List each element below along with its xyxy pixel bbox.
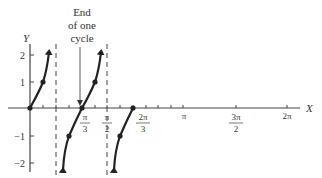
svg-text:2: 2 <box>105 124 110 134</box>
x-tick-pi2: π 2 <box>102 112 112 134</box>
y-axis-label: Y <box>23 32 31 44</box>
svg-text:2π: 2π <box>138 112 148 122</box>
svg-text:3: 3 <box>141 124 146 134</box>
y-tick-2: 2 <box>20 50 25 61</box>
y-tick-m1: −1 <box>14 131 25 142</box>
x-tick-2pi3: 2π 3 <box>136 112 150 134</box>
chart-svg: Y X 2 1 −1 −2 π 3 π 2 2π 3 π 3π 2 2π <box>0 0 322 178</box>
curve-branch-3 <box>114 108 133 170</box>
annotation-line-1: End <box>62 6 102 19</box>
svg-text:π: π <box>83 112 88 122</box>
svg-text:3: 3 <box>83 124 88 134</box>
curve-branch-1 <box>30 52 49 108</box>
x-tick-pi: π <box>182 111 187 121</box>
data-points <box>27 79 135 138</box>
chart-figure: Y X 2 1 −1 −2 π 3 π 2 2π 3 π 3π 2 2π <box>0 0 322 178</box>
x-axis-label: X <box>305 102 314 114</box>
annotation-line-2: of one <box>62 19 102 32</box>
svg-text:3π: 3π <box>231 112 241 122</box>
curve-branch-2 <box>63 52 101 170</box>
x-tick-2pi: 2π <box>282 111 292 121</box>
x-tick-3pi2: 3π 2 <box>229 112 243 134</box>
annotation-end-of-cycle: End of one cycle <box>62 6 102 45</box>
y-tick-1: 1 <box>20 77 25 88</box>
x-tick-pi3: π 3 <box>80 112 90 134</box>
annotation-line-3: cycle <box>62 32 102 45</box>
y-tick-m2: −2 <box>14 158 25 169</box>
svg-text:π: π <box>105 112 110 122</box>
svg-text:2: 2 <box>234 124 239 134</box>
